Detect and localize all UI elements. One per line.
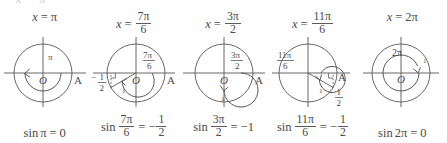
arrow-head bbox=[315, 74, 321, 80]
point-a-label: A bbox=[255, 74, 263, 86]
formula-function: sin bbox=[378, 126, 393, 140]
formula-arg-numerator: 7π bbox=[119, 114, 135, 126]
formula-arg-numerator: 3π bbox=[211, 114, 227, 126]
panel-2pi: x=2π O 1 2π sin2π=0 bbox=[358, 9, 447, 143]
angle-label: π bbox=[48, 52, 53, 62]
formula-equals: = bbox=[231, 120, 238, 134]
origin-label: O bbox=[132, 74, 140, 86]
formula-result-sign: − bbox=[330, 120, 337, 134]
formula-argument: π bbox=[40, 126, 46, 140]
angle-label: 2π bbox=[392, 47, 402, 58]
formula-argument: 2π bbox=[395, 126, 408, 140]
right-angle-mark bbox=[329, 73, 334, 78]
formula-function: sin bbox=[24, 126, 39, 140]
radius-label: 1 bbox=[122, 87, 126, 95]
heading-variable: x bbox=[205, 17, 211, 31]
formula-result-fraction: 12 bbox=[338, 114, 348, 139]
unit-circle-diagram: O A 1 3π 2 bbox=[179, 31, 268, 107]
panel-heading: x=π bbox=[0, 11, 89, 24]
top-cut-fragment-text: x = π bbox=[16, 0, 46, 4]
origin-label: O bbox=[397, 73, 405, 85]
unit-circle-diagram: A 1 11π 6 − 1 2 bbox=[268, 31, 357, 107]
svg-text:2: 2 bbox=[100, 83, 105, 93]
heading-numerator: 7π bbox=[136, 11, 152, 23]
panel-row: x=π O A π sinπ=0 bbox=[0, 9, 447, 143]
radius-label: 1 bbox=[221, 95, 225, 103]
top-cut-artifact: x = π bbox=[0, 0, 447, 9]
formula-result-denominator: 2 bbox=[338, 126, 348, 139]
origin-label: O bbox=[39, 74, 47, 86]
radius-label: 1 bbox=[423, 57, 427, 65]
heading-equals: = bbox=[301, 17, 308, 31]
svg-text:7π: 7π bbox=[143, 50, 153, 60]
point-a-label: A bbox=[74, 74, 82, 86]
formula-argument-fraction: 11π6 bbox=[295, 114, 316, 139]
origin-label: O bbox=[220, 74, 228, 86]
panel-3pi-2: x=3π2 O A 1 3π bbox=[179, 9, 268, 143]
svg-text:3π: 3π bbox=[231, 50, 241, 60]
formula-arg-denominator: 6 bbox=[119, 126, 135, 139]
angle-label: 3π 2 bbox=[231, 50, 243, 71]
formula-arg-denominator: 6 bbox=[295, 126, 316, 139]
formula-function: sin bbox=[193, 120, 208, 134]
angle-label: 7π 6 bbox=[143, 50, 155, 71]
formula-result: 0 bbox=[420, 126, 426, 140]
heading-equals: = bbox=[395, 10, 402, 24]
svg-text:−: − bbox=[328, 87, 333, 97]
right-angle-mark bbox=[111, 73, 116, 78]
heading-equals: = bbox=[214, 17, 221, 31]
formula-function: sin bbox=[101, 120, 116, 134]
formula-argument-fraction: 7π6 bbox=[119, 114, 135, 139]
svg-text:−: − bbox=[91, 72, 96, 82]
heading-variable: x bbox=[116, 17, 122, 31]
unit-circle-diagram: O A π bbox=[0, 31, 89, 107]
heading-value: 2π bbox=[405, 10, 418, 24]
svg-text:11π: 11π bbox=[278, 50, 292, 60]
formula-result-numerator: 1 bbox=[156, 114, 166, 126]
heading-numerator: 3π bbox=[225, 11, 241, 23]
svg-text:6: 6 bbox=[283, 61, 288, 71]
panel-formula: sin3π2=−1 bbox=[179, 114, 268, 139]
unit-circle-diagram: O A 1 7π 6 − 1 2 bbox=[89, 31, 178, 107]
arrow-head bbox=[414, 67, 421, 72]
panel-heading: x=2π bbox=[358, 11, 447, 24]
formula-arg-numerator: 11π bbox=[295, 114, 316, 126]
panel-7pi-6: x=7π6 O A 1 bbox=[89, 9, 178, 143]
heading-variable: x bbox=[32, 10, 38, 24]
formula-equals: = bbox=[138, 120, 145, 134]
heading-numerator: 11π bbox=[312, 11, 333, 23]
sine-value-label: − 1 2 bbox=[328, 87, 343, 108]
point-a-label: A bbox=[167, 74, 175, 86]
heading-equals: = bbox=[124, 17, 131, 31]
point-a-label: A bbox=[338, 71, 346, 83]
svg-text:6: 6 bbox=[147, 61, 152, 71]
formula-result-fraction: 12 bbox=[156, 114, 166, 139]
formula-result-denominator: 2 bbox=[156, 126, 166, 139]
svg-text:1: 1 bbox=[100, 72, 105, 82]
unit-circle-sine-figure: x = π x=π O A π bbox=[0, 0, 447, 143]
formula-argument-fraction: 3π2 bbox=[211, 114, 227, 139]
formula-arg-denominator: 2 bbox=[211, 126, 227, 139]
panel-11pi-6: x=11π6 A 1 bbox=[268, 9, 357, 143]
svg-text:2: 2 bbox=[235, 61, 240, 71]
unit-circle-diagram: O 1 2π bbox=[358, 31, 447, 107]
formula-result: −1 bbox=[241, 120, 254, 134]
heading-variable: x bbox=[387, 10, 393, 24]
panel-pi: x=π O A π sinπ=0 bbox=[0, 9, 89, 143]
radius-label: 1 bbox=[319, 87, 323, 95]
angle-arc bbox=[224, 73, 258, 107]
formula-equals: = bbox=[320, 120, 327, 134]
formula-result-sign: − bbox=[148, 120, 155, 134]
panel-formula: sin2π=0 bbox=[358, 127, 447, 140]
svg-text:1: 1 bbox=[336, 87, 341, 97]
heading-equals: = bbox=[41, 10, 48, 24]
formula-function: sin bbox=[277, 120, 292, 134]
panel-formula: sin11π6=−12 bbox=[268, 114, 357, 139]
sine-value-label: − 1 2 bbox=[91, 72, 106, 93]
formula-equals: = bbox=[50, 126, 57, 140]
panel-formula: sinπ=0 bbox=[0, 127, 89, 140]
heading-value: π bbox=[51, 10, 57, 24]
panel-formula: sin7π6=−12 bbox=[89, 114, 178, 139]
formula-equals: = bbox=[410, 126, 417, 140]
svg-text:2: 2 bbox=[336, 98, 341, 108]
